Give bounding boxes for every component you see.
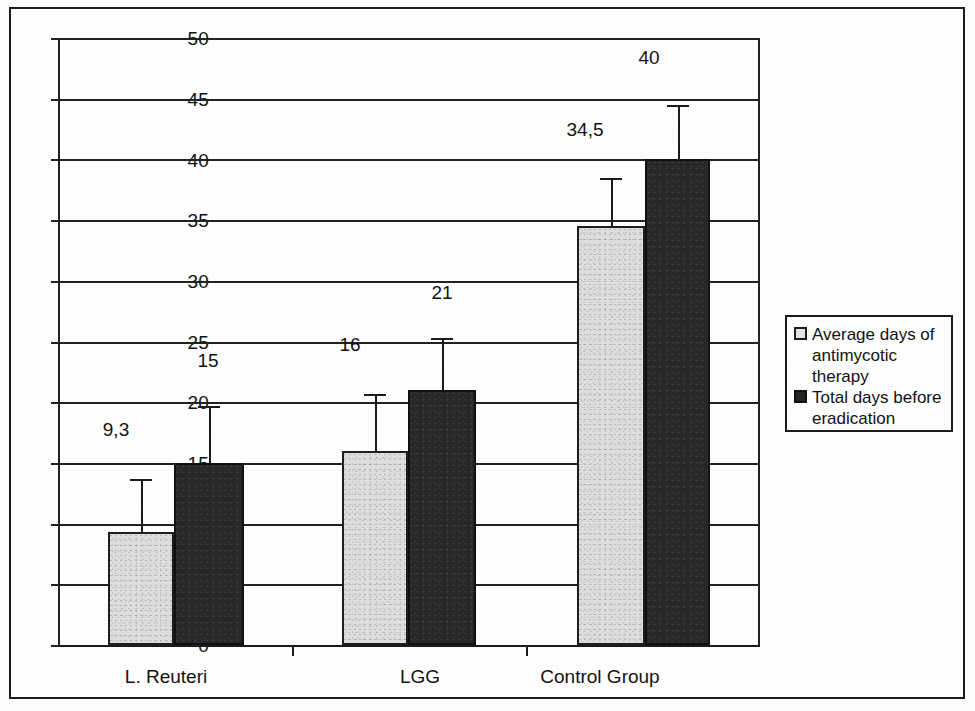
bar-lreuteri-average-days[interactable] xyxy=(108,532,174,645)
value-label-control-average-days: 34,5 xyxy=(547,120,623,139)
errorbar-stem xyxy=(209,406,211,463)
errorbar-stem xyxy=(141,479,143,532)
x-tick-mark xyxy=(526,645,528,656)
legend: Average days of antimycotic therapy Tota… xyxy=(785,315,953,432)
errorbar-control-total-days xyxy=(645,105,710,160)
value-label-lreuteri-total-days: 15 xyxy=(173,351,243,370)
gridline-50 xyxy=(58,38,760,40)
chart-page: 50 45 40 35 30 25 20 15 10 5 0 xyxy=(0,0,975,711)
dark-square-icon xyxy=(794,390,807,403)
errorbar-stem xyxy=(678,105,680,160)
plot-right-edge xyxy=(758,38,760,645)
bar-lreuteri-total-days[interactable] xyxy=(174,463,244,645)
bar-lgg-total-days[interactable] xyxy=(408,390,476,645)
errorbar-lreuteri-total-days xyxy=(174,406,244,463)
bar-control-average-days[interactable] xyxy=(577,226,645,645)
legend-entry-total-days[interactable]: Total days before eradication xyxy=(794,387,951,429)
errorbar-stem xyxy=(442,338,444,390)
errorbar-cap xyxy=(364,394,386,396)
errorbar-stem xyxy=(375,394,377,451)
bar-control-total-days[interactable] xyxy=(645,159,710,645)
x-tick-mark xyxy=(292,645,294,656)
gridline-45 xyxy=(58,99,760,101)
legend-label: Total days before eradication xyxy=(812,387,951,429)
value-label-lgg-average-days: 16 xyxy=(315,335,385,354)
bar-lgg-average-days[interactable] xyxy=(342,451,408,645)
errorbar-lreuteri-average-days xyxy=(108,479,174,532)
errorbar-stem xyxy=(611,178,613,227)
light-square-icon xyxy=(794,327,807,340)
errorbar-cap xyxy=(198,406,220,408)
errorbar-cap xyxy=(600,178,622,180)
legend-entry-average-days[interactable]: Average days of antimycotic therapy xyxy=(794,324,951,387)
errorbar-cap xyxy=(667,105,689,107)
value-label-lreuteri-average-days: 9,3 xyxy=(81,420,151,439)
x-axis-label-lreuteri: L. Reuteri xyxy=(106,667,226,686)
y-axis-line xyxy=(58,38,60,645)
value-label-control-total-days: 40 xyxy=(614,48,684,67)
errorbar-control-average-days xyxy=(577,178,645,227)
x-axis-line xyxy=(58,645,760,647)
value-label-lgg-total-days: 21 xyxy=(407,283,477,302)
plot-area xyxy=(58,38,760,645)
errorbar-cap xyxy=(130,479,152,481)
x-axis-label-lgg: LGG xyxy=(360,667,480,686)
errorbar-lgg-total-days xyxy=(408,338,476,390)
errorbar-cap xyxy=(431,338,453,340)
errorbar-lgg-average-days xyxy=(342,394,408,451)
x-axis-label-control-group: Control Group xyxy=(520,667,680,686)
legend-label: Average days of antimycotic therapy xyxy=(812,324,951,387)
